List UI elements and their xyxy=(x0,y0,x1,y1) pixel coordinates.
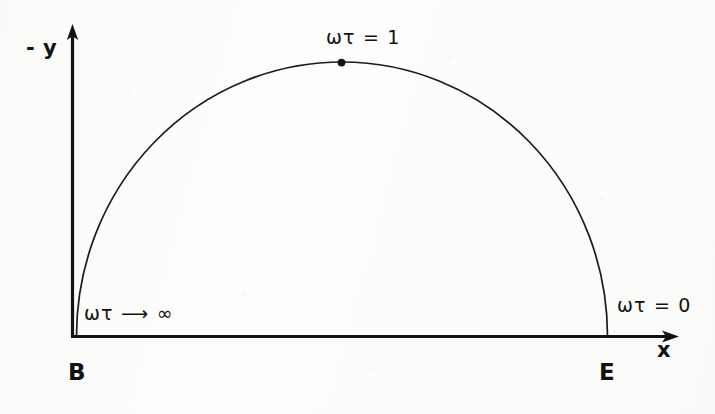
figure-canvas: - y x ωτ = 1 ωτ ⟶ ∞ ωτ = 0 B E xyxy=(0,0,715,414)
annotation-apex-omega-tau-1: ωτ = 1 xyxy=(326,28,401,47)
annotation-left-omega-tau-infinity: ωτ ⟶ ∞ xyxy=(84,304,174,323)
annotation-right-omega-tau-zero: ωτ = 0 xyxy=(617,296,692,315)
endpoint-label-e: E xyxy=(599,361,615,384)
x-axis-label: x xyxy=(657,340,671,361)
x-axis xyxy=(71,331,679,343)
y-axis xyxy=(67,24,78,337)
apex-marker-dot xyxy=(338,59,346,67)
plot-drawing xyxy=(0,0,715,414)
endpoint-label-b: B xyxy=(68,361,86,384)
semicircle-curve xyxy=(77,62,608,336)
y-axis-label: - y xyxy=(26,38,57,59)
